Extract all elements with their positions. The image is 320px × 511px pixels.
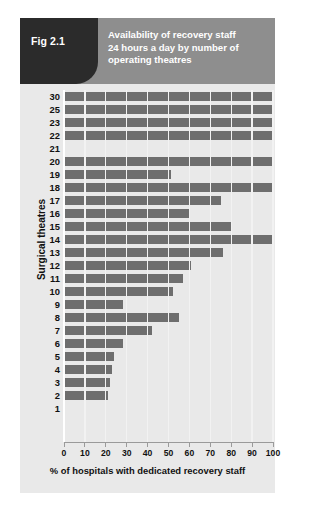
bar-row: 17 bbox=[20, 194, 275, 207]
figure-number-label: Fig 2.1 bbox=[31, 35, 65, 47]
x-axis-tick bbox=[147, 443, 148, 447]
bar-row-label: 13 bbox=[20, 246, 60, 259]
bar-track bbox=[64, 389, 273, 402]
x-axis-tick bbox=[84, 443, 85, 447]
bar bbox=[64, 183, 273, 192]
bar-row: 15 bbox=[20, 220, 275, 233]
bar bbox=[64, 170, 171, 179]
bar-row-label: 6 bbox=[20, 337, 60, 350]
bar-track bbox=[64, 155, 273, 168]
bar bbox=[64, 118, 273, 127]
bar-track bbox=[64, 168, 273, 181]
figure-panel: Fig 2.1 Availability of recovery staff 2… bbox=[20, 18, 275, 493]
bar-track bbox=[64, 376, 273, 389]
bar-track bbox=[64, 194, 273, 207]
figure-title-line-3: operating theatres bbox=[108, 54, 268, 67]
x-axis-tick-label: 30 bbox=[122, 448, 132, 458]
bar bbox=[64, 287, 173, 296]
bar-row: 20 bbox=[20, 155, 275, 168]
bar-track bbox=[64, 324, 273, 337]
bar bbox=[64, 313, 179, 322]
bar-track bbox=[64, 350, 273, 363]
bar-row: 16 bbox=[20, 207, 275, 220]
bar-row: 12 bbox=[20, 259, 275, 272]
bar bbox=[64, 378, 110, 387]
bar-row: 22 bbox=[20, 129, 275, 142]
x-axis-tick-label: 90 bbox=[247, 448, 257, 458]
bar-row-label: 4 bbox=[20, 363, 60, 376]
bar bbox=[64, 196, 221, 205]
bar-row-label: 17 bbox=[20, 194, 60, 207]
bar-row: 19 bbox=[20, 168, 275, 181]
bar-track bbox=[64, 337, 273, 350]
bar-track bbox=[64, 207, 273, 220]
bar-row-label: 19 bbox=[20, 168, 60, 181]
x-axis-tick-label: 100 bbox=[266, 448, 280, 458]
bar bbox=[64, 131, 273, 140]
bar-row: 4 bbox=[20, 363, 275, 376]
bar-row: 8 bbox=[20, 311, 275, 324]
bar bbox=[64, 365, 112, 374]
bar bbox=[64, 235, 273, 244]
bar-row-label: 11 bbox=[20, 272, 60, 285]
x-axis-tick bbox=[252, 443, 253, 447]
bar-row: 25 bbox=[20, 103, 275, 116]
bar-row-label: 9 bbox=[20, 298, 60, 311]
x-axis-ticks bbox=[64, 443, 273, 447]
figure-title-line-1: Availability of recovery staff bbox=[108, 29, 268, 42]
bar bbox=[64, 209, 189, 218]
bar bbox=[64, 92, 273, 101]
x-axis-tick-label: 60 bbox=[185, 448, 195, 458]
bar-row: 23 bbox=[20, 116, 275, 129]
bar-rows: 3025232221201918171615141312111098765432… bbox=[20, 90, 275, 415]
bar-row-label: 22 bbox=[20, 129, 60, 142]
bar-track bbox=[64, 285, 273, 298]
bar-row-label: 8 bbox=[20, 311, 60, 324]
bar-row: 5 bbox=[20, 350, 275, 363]
bar-track bbox=[64, 311, 273, 324]
bar-row-label: 10 bbox=[20, 285, 60, 298]
bar-row: 2 bbox=[20, 389, 275, 402]
bar-row-label: 12 bbox=[20, 259, 60, 272]
x-axis-tick bbox=[168, 443, 169, 447]
bar bbox=[64, 300, 123, 309]
bar-track bbox=[64, 116, 273, 129]
bar-track bbox=[64, 298, 273, 311]
x-axis-tick-label: 70 bbox=[206, 448, 216, 458]
x-axis-tick-label: 20 bbox=[101, 448, 111, 458]
bar-row: 9 bbox=[20, 298, 275, 311]
x-axis-tick-label: 80 bbox=[226, 448, 236, 458]
bar bbox=[64, 326, 152, 335]
figure-header: Fig 2.1 Availability of recovery staff 2… bbox=[20, 18, 275, 84]
bar-track bbox=[64, 181, 273, 194]
x-axis-title: % of hospitals with dedicated recovery s… bbox=[20, 465, 275, 476]
bar-row-label: 5 bbox=[20, 350, 60, 363]
x-axis-tick bbox=[64, 443, 65, 447]
bar-row-label: 30 bbox=[20, 90, 60, 103]
bar-row-label: 14 bbox=[20, 233, 60, 246]
bar-row-label: 3 bbox=[20, 376, 60, 389]
figure-title-line-2: 24 hours a day by number of bbox=[108, 42, 268, 55]
bar bbox=[64, 352, 114, 361]
x-axis-tick-label: 50 bbox=[164, 448, 174, 458]
bar-row-label: 16 bbox=[20, 207, 60, 220]
bar-row: 11 bbox=[20, 272, 275, 285]
x-axis-tick-label: 40 bbox=[143, 448, 153, 458]
bar-row: 1 bbox=[20, 402, 275, 415]
figure-number-badge: Fig 2.1 bbox=[20, 18, 98, 84]
x-axis-tick-labels: 0102030405060708090100 bbox=[64, 448, 273, 460]
bar-row: 3 bbox=[20, 376, 275, 389]
plot-area: Surgical theatres 3025232221201918171615… bbox=[20, 84, 275, 493]
x-axis-tick bbox=[105, 443, 106, 447]
bar-row: 18 bbox=[20, 181, 275, 194]
bar bbox=[64, 222, 231, 231]
bar-row: 7 bbox=[20, 324, 275, 337]
bar-row-label: 23 bbox=[20, 116, 60, 129]
bar-track bbox=[64, 402, 273, 415]
bar-row: 30 bbox=[20, 90, 275, 103]
bar-track bbox=[64, 129, 273, 142]
bar bbox=[64, 339, 123, 348]
bar-row-label: 2 bbox=[20, 389, 60, 402]
x-axis-tick-label: 10 bbox=[80, 448, 90, 458]
bar-track bbox=[64, 142, 273, 155]
